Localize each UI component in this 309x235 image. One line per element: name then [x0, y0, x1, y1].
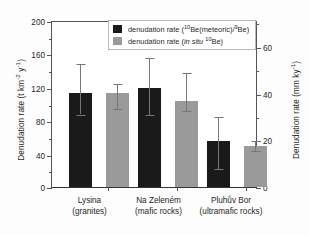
errorbar-cap-upper-nazelenem-insitu — [182, 73, 191, 74]
y-left-tick-160 — [47, 55, 52, 56]
legend-meteoric-mid: Be(meteoric)/ — [190, 25, 234, 34]
y-left-tick-200 — [47, 22, 52, 23]
y-axis-right-title: Denudation rate (mm ky-1) — [289, 45, 301, 175]
y-left-title-sup-a: -2 — [14, 74, 21, 80]
y-left-label-40: 40 — [36, 151, 45, 160]
errorbar-line-pluhuvbor-meteoric — [218, 117, 219, 169]
legend: denudation rate (10Be(meteoric)/9Be) den… — [108, 20, 256, 50]
errorbar-cap-upper-nazelenem-meteoric — [145, 58, 154, 59]
y-right-minor-tick-50 — [256, 71, 259, 72]
errorbar-cap-upper-lysina-meteoric — [76, 64, 85, 65]
errorbar-line-nazelenem-meteoric — [149, 58, 150, 116]
denudation-rate-bar-chart: Denudation rate (t km-2 y-1) Denudation … — [0, 0, 309, 235]
legend-meteoric-post: Be) — [238, 25, 250, 34]
x-label-lysina-line2: (granites) — [51, 207, 128, 218]
y-left-title-text-a: Denudation rate (t km — [17, 80, 26, 161]
errorbar-line-lysina-insitu — [117, 84, 118, 109]
y-right-tick-40 — [256, 95, 261, 96]
errorbar-cap-upper-pluhuvbor-meteoric — [214, 117, 223, 118]
y-right-title-text-b: ) — [292, 61, 301, 64]
errorbar-cap-lower-lysina-insitu — [113, 109, 122, 110]
y-left-minor-tick-20 — [49, 172, 52, 173]
errorbar-line-nazelenem-insitu — [186, 73, 187, 111]
legend-insitu-post: Be) — [212, 37, 224, 46]
legend-meteoric-pre: denudation rate ( — [128, 25, 184, 34]
bar-pluhuvbor-insitu — [244, 146, 267, 187]
errorbar-cap-upper-lysina-insitu — [113, 84, 122, 85]
y-right-title-sup-a: -1 — [289, 64, 296, 70]
x-category-label-pluhuvbor: Pluhův Bor (ultramafic rocks) — [186, 196, 276, 217]
bar-nazelenem-insitu — [175, 101, 198, 187]
errorbar-cap-lower-pluhuvbor-meteoric — [214, 169, 223, 170]
x-label-nazelenem-line1: Na Zeleném — [136, 196, 181, 205]
y-left-label-80: 80 — [36, 118, 45, 127]
y-right-label-20: 20 — [263, 137, 272, 146]
legend-swatch-insitu-icon — [113, 37, 122, 45]
y-right-minor-tick-30 — [256, 118, 259, 119]
errorbar-line-pluhuvbor-insitu — [255, 141, 256, 151]
x-label-lysina-line1: Lysina — [78, 196, 101, 205]
y-left-tick-0 — [47, 188, 52, 189]
y-right-minor-tick-70 — [256, 24, 259, 25]
legend-item-meteoric: denudation rate (10Be(meteoric)/9Be) — [113, 24, 251, 34]
x-category-label-lysina: Lysina (granites) — [51, 196, 128, 217]
y-left-minor-tick-100 — [49, 106, 52, 107]
y-left-minor-tick-140 — [49, 72, 52, 73]
errorbar-cap-lower-nazelenem-insitu — [182, 111, 191, 112]
legend-insitu-italic: in situ — [184, 37, 203, 46]
y-right-label-60: 60 — [263, 43, 272, 52]
y-right-tick-0 — [256, 188, 261, 189]
x-label-pluhuvbor-line1: Pluhův Bor — [211, 196, 251, 205]
y-right-label-40: 40 — [263, 90, 272, 99]
y-left-label-120: 120 — [31, 84, 45, 93]
y-axis-left-title: Denudation rate (t km-2 y-1) — [14, 45, 26, 175]
legend-label-meteoric: denudation rate (10Be(meteoric)/9Be) — [128, 24, 249, 34]
y-left-label-200: 200 — [31, 18, 45, 27]
y-left-minor-tick-60 — [49, 139, 52, 140]
y-left-label-160: 160 — [31, 51, 45, 60]
x-tick-1 — [108, 187, 109, 191]
x-label-pluhuvbor-line2: (ultramafic rocks) — [186, 207, 276, 218]
legend-label-insitu: denudation rate (in situ 10Be) — [128, 36, 223, 46]
x-tick-2 — [177, 187, 178, 191]
y-right-title-text-a: Denudation rate (mm ky — [292, 69, 301, 159]
legend-insitu-pre: denudation rate ( — [128, 37, 184, 46]
errorbar-cap-lower-lysina-meteoric — [76, 115, 85, 116]
errorbar-cap-upper-pluhuvbor-insitu — [251, 141, 260, 142]
y-left-title-sup-b: -1 — [14, 62, 21, 68]
y-right-tick-60 — [256, 48, 261, 49]
y-left-tick-120 — [47, 89, 52, 90]
errorbar-line-lysina-meteoric — [80, 64, 81, 114]
y-left-tick-80 — [47, 122, 52, 123]
x-tick-3 — [246, 187, 247, 191]
y-left-label-0: 0 — [40, 184, 45, 193]
legend-swatch-meteoric-icon — [113, 25, 122, 33]
y-left-minor-tick-180 — [49, 39, 52, 40]
errorbar-cap-lower-nazelenem-meteoric — [145, 115, 154, 116]
y-left-title-text-c: ) — [17, 59, 26, 62]
legend-item-insitu: denudation rate (in situ 10Be) — [113, 36, 251, 46]
errorbar-cap-lower-pluhuvbor-insitu — [251, 151, 260, 152]
y-left-tick-40 — [47, 156, 52, 157]
y-left-title-text-b: y — [17, 68, 26, 75]
